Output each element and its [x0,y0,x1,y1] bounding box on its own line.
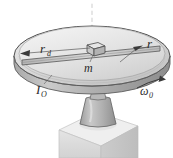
pedestal-cone-body [80,96,116,127]
sliding-block [87,43,105,57]
diagram-canvas: r d m r I O ω 0 [0,0,173,158]
label-angular-velocity-symbol: ω [140,84,148,98]
physics-diagram-rotating-disk: r d m r I O ω 0 [0,0,173,158]
label-block-mass: m [84,61,93,75]
label-angular-velocity-subscript: 0 [149,91,153,100]
label-moment-of-inertia-subscript: O [41,90,47,99]
